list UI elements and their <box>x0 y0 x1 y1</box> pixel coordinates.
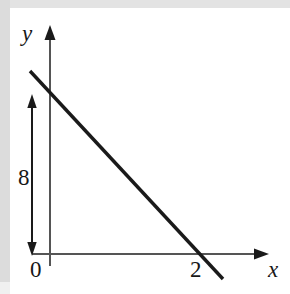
y-measure-label: 8 <box>18 166 30 189</box>
y-measure-arrowhead-up-icon <box>27 94 36 108</box>
y-axis-label: y <box>22 22 32 45</box>
plotted-line <box>30 71 223 279</box>
x-axis-label: x <box>268 258 278 281</box>
x-axis-arrowhead-icon <box>254 249 269 260</box>
coordinate-plot <box>0 0 290 294</box>
y-axis-arrowhead-icon <box>45 25 56 40</box>
origin-label: 0 <box>30 258 42 281</box>
graph-figure: y x 0 2 8 <box>0 0 290 294</box>
x-intercept-label: 2 <box>190 258 202 281</box>
